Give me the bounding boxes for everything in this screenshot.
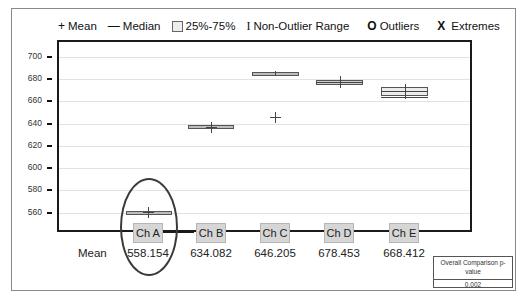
comparison-header: Overall Comparison p-value [434,257,512,280]
legend-range: I Non-Outlier Range [246,19,349,34]
channel-label-ch-b: Ch B [196,223,226,243]
square-icon [172,21,183,32]
legend-iqr: 25%-75% [172,20,236,32]
overall-comparison-box: Overall Comparison p-value 0.002 [433,256,513,288]
highlight-ellipse [120,178,178,276]
legend-outliers: O Outliers [367,19,419,33]
mean-value-ch-e: 668.412 [374,247,434,259]
mean-value-ch-b: 634.082 [181,247,241,259]
legend-label: Outliers [380,20,420,32]
y-tick-label: 680 [28,73,42,83]
median-tick-ch-c [275,71,276,75]
range-bar-icon: I [246,19,250,34]
legend-median: — Median [108,19,161,33]
x-icon: X [437,19,445,33]
plot-area [57,40,472,232]
y-tick-label: 620 [28,140,42,150]
legend-extremes: X Extremes [437,19,500,33]
legend: + Mean — Median 25%-75% I Non-Outlier Ra… [58,18,511,34]
legend-label: 25%-75% [186,20,236,32]
y-tick-label: 560 [28,207,42,217]
y-tick-label: 580 [28,184,42,194]
y-tick-label: 600 [28,162,42,172]
mean-marker-ch-c [275,112,276,123]
dash-icon: — [108,19,120,33]
legend-label: Median [123,20,161,32]
y-tick-label: 700 [28,51,42,61]
mean-value-ch-d: 678.453 [309,247,369,259]
mean-marker-ch-d [340,76,341,88]
y-tick-label: 660 [28,95,42,105]
plus-icon: + [58,19,65,33]
mean-row-label: Mean [78,247,107,259]
circle-icon: O [367,19,376,33]
mean-marker-ch-e [405,84,406,99]
legend-label: Non-Outlier Range [253,20,349,32]
channel-label-ch-c: Ch C [260,223,290,243]
mean-marker-ch-b [211,122,212,133]
legend-mean: + Mean [58,19,97,33]
mean-value-ch-c: 646.205 [245,247,305,259]
y-tick-label: 640 [28,118,42,128]
channel-label-ch-d: Ch D [324,223,354,243]
legend-label: Mean [68,20,97,32]
channel-label-ch-e: Ch E [389,223,419,243]
legend-label: Extremes [451,20,500,32]
comparison-p-value: 0.002 [434,280,512,289]
